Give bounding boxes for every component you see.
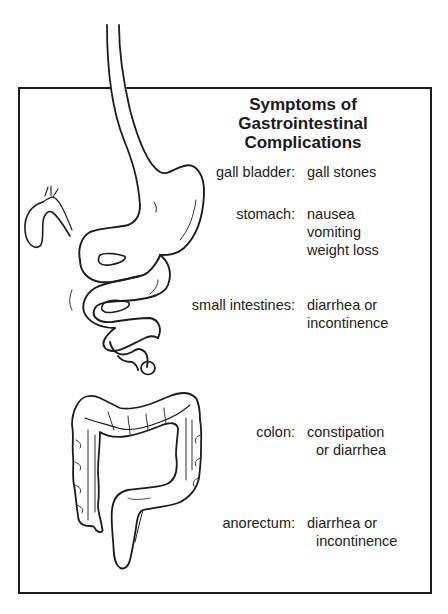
gall-bladder-icon: [25, 186, 72, 247]
symptom-text: diarrhea or: [307, 514, 377, 532]
organ-label: small intestines:: [192, 296, 295, 314]
diagram-title-line-1: Symptoms of: [178, 95, 428, 114]
symptom-text: gall stones: [307, 163, 376, 181]
symptom-text: diarrhea or: [307, 296, 377, 314]
colon-icon: [72, 393, 201, 568]
diagram-title-line-2: Gastrointestinal Complications: [178, 114, 428, 152]
esophagus-icon: [107, 25, 187, 207]
organ-label: stomach:: [236, 205, 295, 223]
organ-label: gall bladder:: [216, 163, 295, 181]
symptom-text: incontinence: [316, 532, 397, 550]
symptom-text: constipation: [307, 423, 384, 441]
symptom-text: or diarrhea: [316, 441, 386, 459]
organ-label: colon:: [256, 423, 295, 441]
small-intestine-icon: [70, 253, 170, 374]
symptom-text: nausea: [307, 205, 355, 223]
symptom-text: incontinence: [307, 314, 388, 332]
organ-label: anorectum:: [222, 514, 295, 532]
gi-symptoms-diagram: Symptoms of Gastrointestinal Complicatio…: [0, 0, 448, 614]
rectum-icon: [128, 498, 150, 542]
symptom-text: vomiting: [307, 223, 361, 241]
symptom-text: weight loss: [307, 241, 379, 259]
